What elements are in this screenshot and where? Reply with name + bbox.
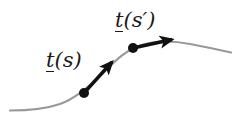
tangent-vector-s-arrow (84, 62, 112, 93)
point-marker-s-prime (128, 43, 138, 53)
label-t-of-s-close-paren: ) (73, 48, 81, 72)
label-t-of-s-prime-argument: s (132, 8, 143, 32)
label-t-of-s: t(s) (46, 50, 82, 72)
label-t-of-s-prime-close-paren: ) (147, 8, 155, 32)
label-t-of-s-open-paren: ( (54, 48, 62, 72)
tangent-vector-s-prime-arrow (133, 40, 172, 49)
label-t-of-s-prime-open-paren: ( (123, 8, 131, 32)
label-t-of-s-prime: t(s′) (115, 10, 155, 32)
point-marker-s (79, 88, 89, 98)
figure-canvas: t(s) t(s′) (0, 0, 245, 127)
label-t-of-s-argument: s (63, 48, 74, 72)
trajectory-curve (10, 41, 231, 110)
